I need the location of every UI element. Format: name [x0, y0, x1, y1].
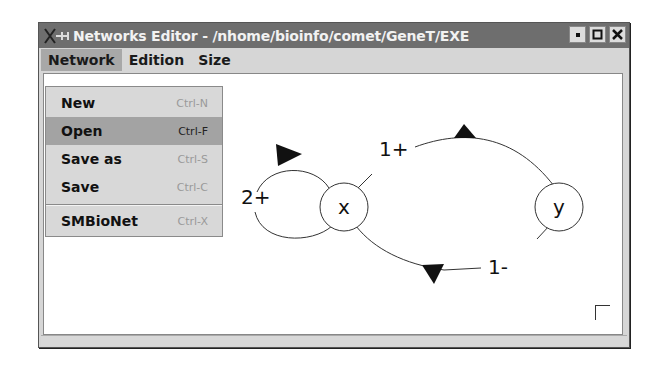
menu-item-new[interactable]: New Ctrl-N — [46, 89, 222, 117]
networks-editor-window: Networks Editor - /nhome/bioinfo/comet/G… — [38, 22, 630, 348]
menu-size[interactable]: Size — [191, 49, 238, 71]
horizontal-scrollbar[interactable] — [41, 335, 627, 346]
menu-separator — [46, 204, 222, 206]
menu-item-open[interactable]: Open Ctrl-F — [46, 117, 222, 145]
edge-label-2plus: 2+ — [241, 185, 270, 209]
window-title: Networks Editor - /nhome/bioinfo/comet/G… — [73, 28, 469, 44]
svg-text:x: x — [338, 195, 350, 219]
minimize-icon — [573, 30, 582, 39]
arrowhead-icon — [276, 144, 302, 166]
network-menu-dropdown: New Ctrl-N Open Ctrl-F Save as Ctrl-S Sa… — [45, 86, 223, 237]
menu-item-smbionet[interactable]: SMBioNet Ctrl-X — [46, 207, 222, 235]
svg-text:y: y — [553, 195, 565, 219]
node-x[interactable]: x — [320, 183, 368, 231]
menu-item-save-as[interactable]: Save as Ctrl-S — [46, 145, 222, 173]
menu-network[interactable]: Network — [41, 49, 122, 71]
edge-y-to-x[interactable]: 1- — [356, 225, 550, 284]
app-icon[interactable] — [43, 26, 71, 46]
menu-edition[interactable]: Edition — [122, 49, 191, 71]
close-icon — [612, 29, 623, 40]
arrowhead-icon — [454, 124, 476, 138]
menu-bar: Network Edition Size — [41, 49, 627, 71]
resize-handle[interactable] — [595, 305, 610, 320]
maximize-icon — [592, 29, 603, 40]
edge-label-1minus: 1- — [488, 255, 508, 279]
edge-x-to-x[interactable]: 2+ — [241, 144, 332, 238]
menu-item-save[interactable]: Save Ctrl-C — [46, 173, 222, 201]
edge-label-1plus: 1+ — [379, 137, 408, 161]
close-button[interactable] — [609, 26, 626, 43]
title-bar[interactable]: Networks Editor - /nhome/bioinfo/comet/G… — [39, 23, 629, 48]
minimize-button[interactable] — [569, 26, 586, 43]
node-y[interactable]: y — [535, 183, 583, 231]
arrowhead-icon — [422, 264, 444, 284]
maximize-button[interactable] — [589, 26, 606, 43]
edge-x-to-y[interactable]: 1+ — [358, 124, 554, 188]
